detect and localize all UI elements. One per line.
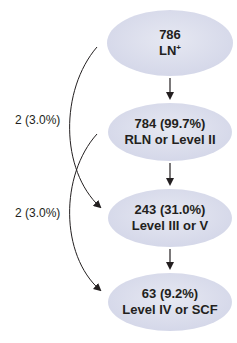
node-ln-label-text: LN xyxy=(159,43,176,58)
skip-edge-label-2: 2 (3.0%) xyxy=(15,206,60,220)
skip-edge-label-1: 2 (3.0%) xyxy=(15,113,60,127)
skip-arrow-rln-to-l4 xyxy=(70,134,100,290)
skip-arrow-ln-to-l3 xyxy=(70,47,100,207)
node-l4-label: Level IV or SCF xyxy=(105,302,235,318)
node-l3: 243 (31.0%) Level III or V xyxy=(105,202,235,234)
node-rln-count: 784 (99.7%) xyxy=(105,116,235,132)
node-ln-count: 786 xyxy=(105,27,235,43)
node-rln: 784 (99.7%) RLN or Level II xyxy=(105,116,235,148)
node-ln-label: LN+ xyxy=(105,43,235,59)
node-ln: 786 LN+ xyxy=(105,27,235,59)
node-l4-count: 63 (9.2%) xyxy=(105,286,235,302)
node-rln-label: RLN or Level II xyxy=(105,132,235,148)
node-ln-label-sup: + xyxy=(176,43,181,52)
node-l3-count: 243 (31.0%) xyxy=(105,202,235,218)
node-l3-label: Level III or V xyxy=(105,218,235,234)
node-l4: 63 (9.2%) Level IV or SCF xyxy=(105,286,235,318)
